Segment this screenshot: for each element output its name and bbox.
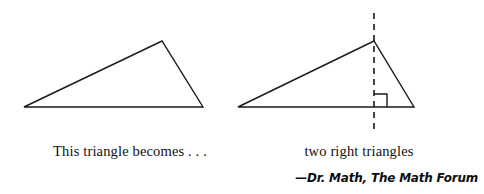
- right-angle-square-icon: [374, 94, 387, 107]
- attribution-credit: —Dr. Math, The Math Forum: [38, 170, 478, 185]
- left-triangle-shape: [24, 41, 203, 107]
- caption-left: This triangle becomes . . .: [0, 144, 260, 159]
- geometry-diagram: [0, 0, 484, 194]
- caption-right: two right triangles: [254, 144, 464, 159]
- left-triangle-group: [24, 41, 203, 107]
- figure-root: This triangle becomes . . . two right tr…: [0, 0, 484, 194]
- right-triangle-group: [238, 13, 414, 129]
